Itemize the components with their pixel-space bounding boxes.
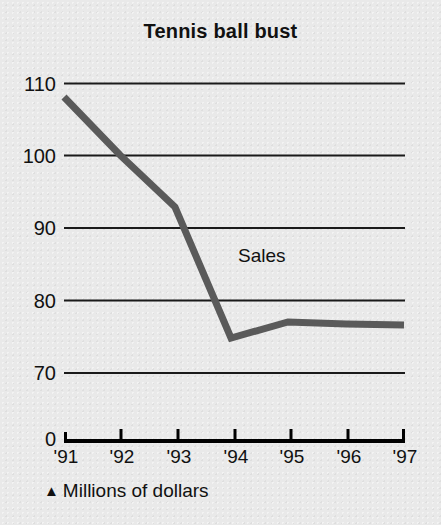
y-tick-label-80: 80: [2, 291, 56, 311]
y-tick-label-100: 100: [2, 146, 56, 166]
chart-figure: Tennis ball bust 110 100 90 80 70 0: [0, 0, 441, 525]
gridlines: [64, 84, 405, 374]
chart-footnote-text: Millions of dollars: [63, 480, 209, 501]
x-tick-label-93: '93: [149, 447, 209, 467]
y-tick-label-90: 90: [2, 218, 56, 238]
series-line-sales: [64, 97, 404, 338]
triangle-marker-icon: ▲: [44, 482, 59, 499]
x-tick-label-96: '96: [319, 447, 379, 467]
x-tick-label-94: '94: [206, 447, 266, 467]
x-axis: [64, 429, 405, 441]
y-tick-label-0: 0: [2, 429, 56, 449]
x-tick-label-95: '95: [262, 447, 322, 467]
y-tick-label-70: 70: [2, 363, 56, 383]
chart-footnote: ▲Millions of dollars: [44, 480, 209, 502]
x-tick-label-97: '97: [375, 447, 435, 467]
series-label-sales: Sales: [238, 246, 286, 266]
x-tick-label-91: '91: [36, 447, 96, 467]
y-tick-label-110: 110: [2, 74, 56, 94]
x-tick-label-92: '92: [92, 447, 152, 467]
